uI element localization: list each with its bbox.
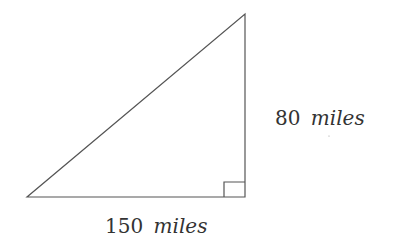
triangle-diagram: 80 miles 150 miles (0, 0, 396, 247)
horizontal-side-value: 150 (105, 214, 143, 238)
stray-dot (328, 135, 329, 136)
horizontal-side-label: 150 miles (105, 214, 207, 238)
horizontal-side-unit: miles (154, 214, 208, 238)
vertical-side-value: 80 (275, 106, 300, 130)
vertical-side-unit: miles (311, 106, 365, 130)
right-triangle (27, 14, 245, 197)
right-angle-marker (224, 182, 245, 197)
vertical-side-label: 80 miles (275, 106, 365, 130)
